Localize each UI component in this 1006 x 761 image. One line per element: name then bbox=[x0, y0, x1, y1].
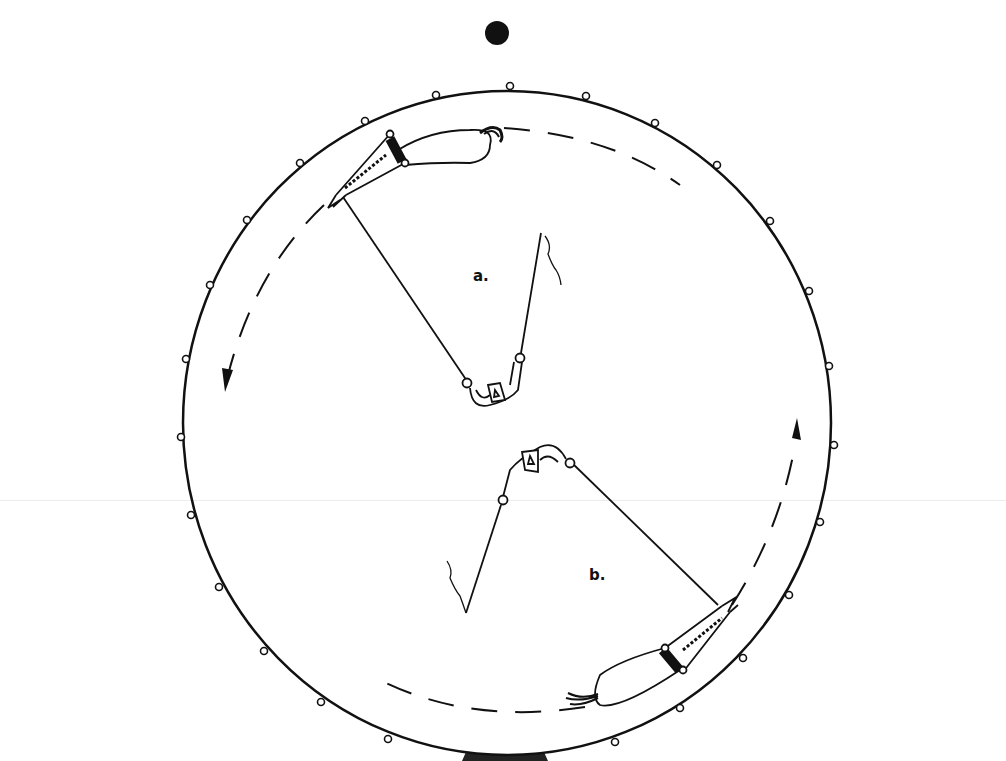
wavy-tail-b bbox=[447, 561, 466, 613]
label-a: a. bbox=[473, 267, 489, 285]
apparatus-a bbox=[328, 128, 561, 406]
lead-line-a bbox=[521, 233, 541, 353]
arrowhead-down-icon bbox=[222, 368, 233, 392]
diagram-canvas bbox=[0, 0, 1006, 761]
strap-line-a bbox=[343, 197, 467, 381]
rim-rings bbox=[178, 83, 838, 746]
arrowhead-up-icon bbox=[792, 418, 801, 440]
lead-line-b bbox=[466, 505, 501, 613]
arena-circle bbox=[183, 91, 831, 755]
wavy-tail-a bbox=[545, 236, 561, 285]
tuft-b bbox=[566, 693, 598, 704]
rotation-arrow-a bbox=[222, 128, 680, 392]
label-b: b. bbox=[589, 566, 605, 584]
top-marker-dot bbox=[485, 21, 509, 45]
bag-a bbox=[398, 130, 491, 165]
